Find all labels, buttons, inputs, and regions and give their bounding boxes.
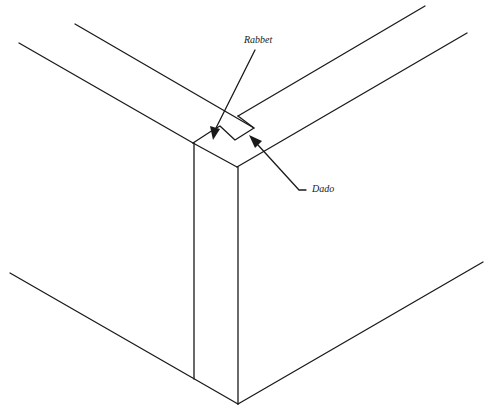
dado-label: Dado xyxy=(312,183,334,194)
rabbet-arrowhead xyxy=(210,126,220,140)
left-panel-bottom-edge xyxy=(10,273,238,404)
right-panel-outer-top-edge xyxy=(237,33,467,167)
dado-arrowhead xyxy=(249,135,262,148)
corner-top-left-edge xyxy=(193,130,213,143)
rabbet-label: Rabbet xyxy=(244,34,272,45)
joint-drawing xyxy=(0,0,496,418)
right-panel-inner-top-edge xyxy=(238,6,425,116)
left-panel-inner-top-edge xyxy=(75,24,254,128)
joint-diagram: Rabbet Dado xyxy=(0,0,496,418)
dado-leader-line xyxy=(258,145,306,190)
rabbet-leader-line xyxy=(216,50,255,128)
corner-top-front-edge xyxy=(193,143,237,167)
rabbet-notch xyxy=(213,116,254,140)
right-panel-bottom-edge xyxy=(238,262,483,404)
left-panel-outer-top-edge xyxy=(19,43,193,143)
